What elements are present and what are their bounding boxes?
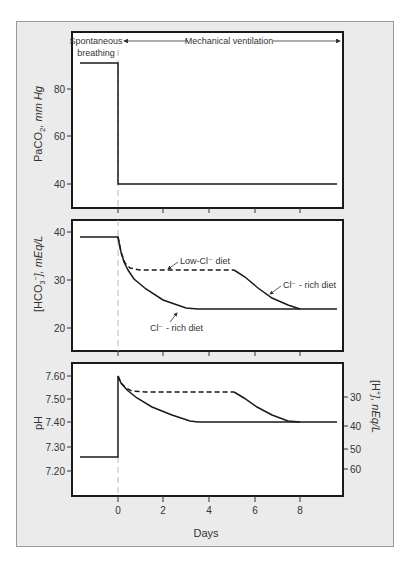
y-axis-label-ph: pH xyxy=(32,416,44,430)
figure-svg: 80 60 40 PaCO2, mm Hg Spontaneous breath… xyxy=(0,0,408,565)
tick-label: 60 xyxy=(54,131,66,142)
tick-label: 50 xyxy=(350,444,362,455)
x-axis: 0 2 4 6 8 Days xyxy=(115,496,303,539)
tick-label: 7.40 xyxy=(46,417,66,428)
tick-label: 30 xyxy=(54,275,66,286)
y-axis-label-paco2: PaCO2, mm Hg xyxy=(32,85,47,162)
y-axis-label-hco3: [HCO3−], mEq/L xyxy=(32,236,46,312)
panel-hco3: 40 30 20 [HCO3−], mEq/L Low-Cl⁻ diet Cl⁻… xyxy=(32,220,343,351)
tick-label: 7.20 xyxy=(46,466,66,477)
tick-label: 80 xyxy=(54,84,66,95)
tick-label: 40 xyxy=(54,227,66,238)
tick-label: 20 xyxy=(54,323,66,334)
x-tick-label: 2 xyxy=(160,505,166,516)
tick-label: 7.50 xyxy=(46,394,66,405)
tick-label: 60 xyxy=(350,464,362,475)
x-axis-label: Days xyxy=(193,527,219,539)
x-tick-label: 0 xyxy=(115,505,121,516)
annotation-mechanical-ventilation: Mechanical ventilation xyxy=(185,36,274,46)
annotation-spontaneous: Spontaneous xyxy=(69,36,123,46)
y2-axis-label-h: [H+], nEq/L xyxy=(370,380,382,433)
panel-paco2: 80 60 40 PaCO2, mm Hg Spontaneous breath… xyxy=(32,32,343,208)
annotation-cl-rich-diet-right: Cl⁻ - rich diet xyxy=(283,280,337,290)
tick-label: 7.30 xyxy=(46,442,66,453)
tick-label: 40 xyxy=(54,179,66,190)
annotation-low-cl-diet: Low-Cl⁻ diet xyxy=(180,256,231,266)
annotation-cl-rich-diet-bottom: Cl⁻ - rich diet xyxy=(150,323,204,333)
x-tick-label: 6 xyxy=(252,505,258,516)
tick-label: 30 xyxy=(350,392,362,403)
panel-ph: 7.60 7.50 7.40 7.30 7.20 pH 30 40 50 60 … xyxy=(32,363,382,496)
tick-label: 7.60 xyxy=(46,371,66,382)
x-tick-label: 4 xyxy=(206,505,212,516)
tick-label: 40 xyxy=(350,421,362,432)
annotation-breathing: breathing xyxy=(77,48,115,58)
x-tick-label: 8 xyxy=(297,505,303,516)
